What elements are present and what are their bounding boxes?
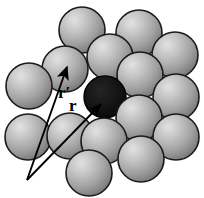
- sphere-bottom-right: [118, 136, 164, 182]
- spheres-layer: [5, 7, 199, 196]
- sphere-left-lower: [5, 114, 51, 160]
- sphere-bottom-center: [66, 150, 112, 196]
- sphere-left-upper: [6, 63, 52, 109]
- vector-label-r: r: [69, 97, 77, 114]
- sphere-packing-figure: r′ r: [0, 0, 204, 198]
- figure-canvas: [0, 0, 204, 198]
